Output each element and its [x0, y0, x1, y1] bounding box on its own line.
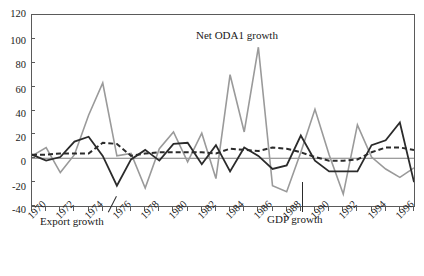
- y-tick: [31, 62, 35, 63]
- annotation-gdp-growth: GDP growth: [267, 214, 323, 225]
- y-tick: [31, 157, 35, 158]
- chart-container: 120 100 80 60 40 20 0 -20 -40 1970197219…: [0, 0, 424, 276]
- plot-area: [31, 14, 415, 207]
- y-tick-label: 120: [0, 9, 26, 20]
- y-tick: [31, 86, 35, 87]
- y-tick-label: -40: [0, 205, 26, 216]
- y-tick-label: 60: [0, 85, 26, 96]
- y-tick-label: -20: [0, 182, 26, 193]
- y-tick: [31, 110, 35, 111]
- y-tick: [31, 38, 35, 39]
- y-tick: [31, 133, 35, 134]
- series-canvas: [32, 15, 414, 206]
- annotation-export-growth: Export growth: [40, 216, 104, 227]
- y-tick-label: 100: [0, 36, 26, 47]
- annotation-net-oda: Net ODA1 growth: [196, 30, 278, 41]
- y-tick: [31, 181, 35, 182]
- y-tick-label: 0: [0, 157, 26, 168]
- y-tick-label: 20: [0, 133, 26, 144]
- leader-line-gdp: [302, 182, 303, 212]
- y-tick-label: 80: [0, 60, 26, 71]
- y-tick-label: 40: [0, 109, 26, 120]
